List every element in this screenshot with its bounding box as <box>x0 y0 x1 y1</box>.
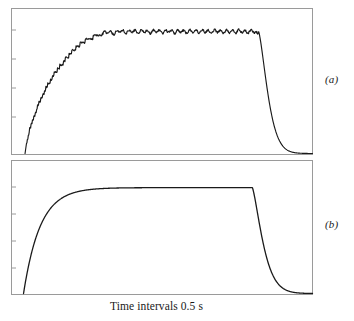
x-axis-caption: Time intervals 0.5 s <box>0 300 313 312</box>
curve-panel-a <box>25 29 312 154</box>
plot-svg <box>0 0 354 321</box>
curve-panel-b <box>24 188 313 294</box>
panel-label-a: (a) <box>325 73 338 85</box>
panel-a-frame <box>12 9 313 155</box>
panel-label-b: (b) <box>325 218 338 230</box>
panel-b-frame <box>12 161 313 295</box>
figure-container: (a) (b) Time intervals 0.5 s <box>0 0 354 321</box>
